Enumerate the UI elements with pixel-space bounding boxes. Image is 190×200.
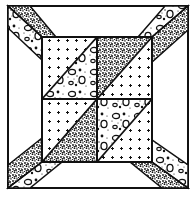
quilt-block-drawing	[0, 0, 190, 200]
center-square	[42, 37, 152, 162]
